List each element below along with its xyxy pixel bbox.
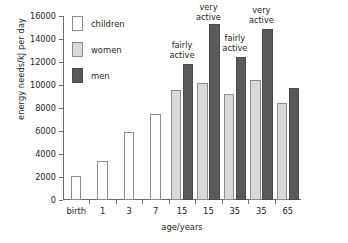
y-axis-tick <box>59 131 63 132</box>
x-axis-tick <box>142 200 143 204</box>
x-axis-tick-label: 1 <box>100 206 105 216</box>
y-axis-tick-label: 14000 <box>30 34 56 44</box>
y-axis-tick-label: 6000 <box>35 126 56 136</box>
y-axis-tick <box>59 108 63 109</box>
bar-men-4 <box>183 64 194 200</box>
bar-women-8 <box>277 103 288 200</box>
bar-men-5 <box>209 24 220 200</box>
y-axis-tick <box>59 154 63 155</box>
x-axis-tick <box>248 200 249 204</box>
x-axis-tick-label: birth <box>66 206 86 216</box>
y-axis-tick <box>59 177 63 178</box>
x-axis-tick-label: 3 <box>126 206 131 216</box>
y-axis-tick-label: 2000 <box>35 172 56 182</box>
bar-children-0 <box>71 176 82 200</box>
x-axis-tick-label: 15 <box>203 206 214 216</box>
bar-women-4 <box>171 90 182 200</box>
y-axis-tick-label: 16000 <box>30 11 56 21</box>
bar-men-7 <box>262 29 273 200</box>
bar-children-3 <box>150 114 161 200</box>
y-axis-line <box>63 16 64 200</box>
y-axis-tick <box>59 16 63 17</box>
x-axis-tick <box>275 200 276 204</box>
bar-women-5 <box>197 83 208 200</box>
x-axis-tick-label: 35 <box>256 206 267 216</box>
x-axis-tick <box>116 200 117 204</box>
bar-women-6 <box>224 94 235 200</box>
x-axis-tick <box>195 200 196 204</box>
x-axis-tick-label: 65 <box>282 206 293 216</box>
y-axis-tick-label: 8000 <box>35 103 56 113</box>
y-axis-tick <box>59 200 63 201</box>
bar-annotation: fairly active <box>222 33 247 53</box>
bar-children-1 <box>97 161 108 200</box>
bar-women-7 <box>250 80 261 200</box>
y-axis-tick <box>59 62 63 63</box>
energy-needs-bar-chart: energy needs/kJ per day children women m… <box>0 0 348 243</box>
bar-children-2 <box>124 132 135 200</box>
x-axis-tick <box>222 200 223 204</box>
x-axis-title: age/years <box>63 222 301 232</box>
x-axis-tick-label: 35 <box>230 206 241 216</box>
x-axis-tick <box>169 200 170 204</box>
bar-men-6 <box>236 57 247 200</box>
bar-annotation: very active <box>249 5 274 25</box>
plot-area: age/years 020004000600080001000012000140… <box>63 16 301 200</box>
y-axis-tick <box>59 85 63 86</box>
y-axis-tick-label: 0 <box>51 195 56 205</box>
x-axis-tick-label: 7 <box>153 206 158 216</box>
x-axis-tick-label: 15 <box>177 206 188 216</box>
bar-men-8 <box>289 88 300 200</box>
bar-annotation: fairly active <box>170 40 195 60</box>
y-axis-title: energy needs/kJ per day <box>16 4 26 134</box>
y-axis-tick-label: 4000 <box>35 149 56 159</box>
x-axis-tick <box>89 200 90 204</box>
y-axis-tick <box>59 39 63 40</box>
y-axis-tick-label: 12000 <box>30 57 56 67</box>
bar-annotation: very active <box>196 2 221 22</box>
y-axis-tick-label: 10000 <box>30 80 56 90</box>
